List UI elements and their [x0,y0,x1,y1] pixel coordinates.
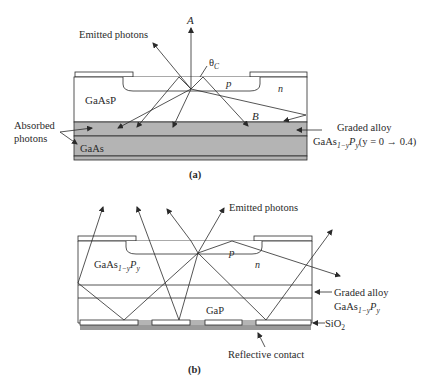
gaas-substrate [74,136,307,156]
reflective-contact [80,325,311,330]
top-contact-right [250,72,307,77]
sio2-pad-1 [80,320,138,325]
label-emitted-photons-a: Emitted photons [79,29,148,40]
sio2-pad-4 [256,320,311,325]
label-n-a: n [278,83,283,94]
label-absorbed-1: Absorbed [14,120,56,131]
graded-alloy-layer [74,122,307,136]
label-n-b: n [255,259,260,270]
sio2-pad-3 [205,320,242,325]
label-formula-b: GaAs1−yPy [334,301,380,315]
reflective-arrow [258,333,265,347]
label-absorbed-2: photons [14,133,47,144]
label-sio2: SiO2 [325,318,345,332]
caption-a: (a) [189,169,202,181]
label-p-b: p [228,246,235,258]
label-graded-alloy-a: Graded alloy [337,122,392,133]
bottom-contact [74,156,307,160]
label-gap: GaP [206,305,224,316]
figure-b [78,207,340,347]
label-emitted-photons-b: Emitted photons [229,202,298,213]
led-structure-diagram: A Emitted photons θC p n GaAsP B Absorbe… [0,0,430,383]
label-gaas: GaAs [80,143,104,154]
theta-leader [200,66,207,77]
label-A: A [186,14,194,26]
p-region-b [126,241,262,254]
label-B: B [252,110,259,122]
sio2-pad-2 [152,320,190,325]
top-contact-right-b [254,236,312,241]
caption-b: (b) [188,364,201,376]
label-gaasp: GaAsP [85,94,116,106]
label-theta-c: θC [209,57,220,71]
label-graded-alloy-b: Graded alloy [334,287,389,298]
label-formula-a: GaAs1−yPy(y = 0 → 0.4) [313,136,417,150]
label-reflective-contact: Reflective contact [228,349,304,360]
label-p-a: p [225,77,232,89]
top-contact-left [75,72,133,77]
top-contact-left-b [78,236,136,241]
